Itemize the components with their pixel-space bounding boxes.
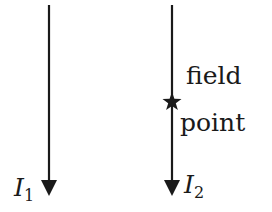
- field-point-label-line2: point: [180, 110, 245, 135]
- current-symbol: I: [184, 170, 194, 199]
- field-point-label-line1: field: [186, 63, 241, 88]
- arrowhead-down-icon: [164, 180, 180, 196]
- current-label-i2: I2: [184, 172, 204, 201]
- current-symbol: I: [14, 173, 24, 202]
- diagram-canvas: [0, 0, 272, 212]
- current-subscript: 2: [194, 183, 204, 202]
- current-subscript: 1: [24, 186, 34, 205]
- arrowhead-down-icon: [41, 180, 57, 196]
- current-label-i1: I1: [14, 175, 34, 204]
- wire-1: [41, 5, 57, 196]
